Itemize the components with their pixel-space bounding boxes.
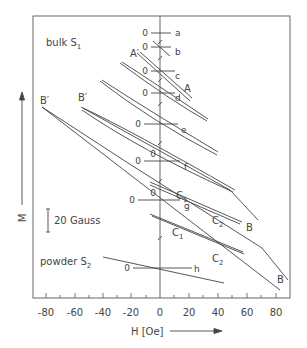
zero-label: 0 [142, 88, 148, 98]
tick-label: 60 [241, 307, 254, 318]
y-arrow-icon [20, 92, 25, 205]
branch-label-a: A [184, 83, 191, 94]
zero-label: 0 [135, 156, 141, 166]
branch-label-c2-prime: C2 [212, 253, 223, 267]
scale-bar-label: 20 Gauss [54, 215, 101, 226]
branch-label-b: B [277, 274, 284, 285]
y-axis-label: M [17, 214, 28, 223]
x-ticks [46, 293, 276, 298]
hysteresis-chart: -80 -60 -40 -20 0 20 40 60 80 H [Oe] M 2… [0, 0, 307, 348]
powder-s2-label: powder S2 [40, 256, 91, 270]
tick-label: -80 [38, 307, 54, 318]
tick-label: 0 [157, 307, 163, 318]
zero-label: 0 [124, 263, 130, 273]
hysteresis-curves [42, 33, 288, 290]
tick-label: -60 [67, 307, 83, 318]
curve-label-b: b [175, 47, 181, 57]
tick-label: 40 [212, 307, 225, 318]
x-axis-label: H [Oe] [131, 326, 164, 337]
x-arrow-icon [170, 329, 222, 334]
curve-label-d: d [175, 93, 181, 103]
zero-label: 0 [142, 28, 148, 38]
zero-label: 0 [150, 188, 156, 198]
zero-label: 0 [129, 195, 135, 205]
curve-label-e: e [181, 125, 187, 135]
branch-label-a-prime: A′ [130, 48, 140, 59]
zero-label: 0 [142, 42, 148, 52]
tick-label: -40 [95, 307, 111, 318]
zero-label: 0 [135, 119, 141, 129]
tick-label: -20 [123, 307, 139, 318]
branch-label-c1-prime: C1 [172, 227, 183, 241]
bulk-s1-label: bulk S1 [46, 37, 81, 51]
tick-label: 80 [270, 307, 283, 318]
branch-label-b: B [246, 222, 253, 233]
scale-bar [46, 209, 50, 232]
curve-label-a: a [175, 28, 181, 38]
branch-label-c1-prime: C1 [176, 190, 187, 204]
branch-label-b-prime: B′ [78, 92, 88, 103]
branch-label-c2-prime: C2 [212, 215, 223, 229]
branch-label-b-prime: B′ [40, 95, 50, 106]
zero-label: 0 [150, 149, 156, 159]
curve-label-h: h [194, 264, 200, 274]
tick-label: 20 [183, 307, 196, 318]
curve-label-c: c [175, 71, 180, 81]
zero-label: 0 [142, 66, 148, 76]
